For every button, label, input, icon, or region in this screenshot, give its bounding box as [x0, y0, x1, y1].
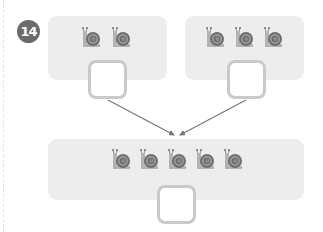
snail-icon [110, 148, 132, 170]
snail-icon [194, 148, 216, 170]
snail-icon [110, 26, 132, 48]
answer-box-top-left[interactable] [88, 60, 127, 99]
exercise-number-badge: 14 [17, 20, 40, 43]
snail-icon [222, 148, 244, 170]
snail-icon [80, 26, 102, 48]
snail-icon [262, 26, 284, 48]
snail-icon [204, 26, 226, 48]
snail-icon [138, 148, 160, 170]
snail-icon [166, 148, 188, 170]
answer-box-top-right[interactable] [227, 60, 266, 99]
snail-icon [233, 26, 255, 48]
answer-box-bottom[interactable] [157, 185, 196, 224]
page-edge-divider [3, 0, 4, 232]
